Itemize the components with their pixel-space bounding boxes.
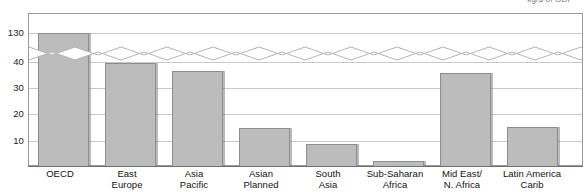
xtick-label-latin-america-carib: Latin America Carib: [486, 169, 578, 190]
ytick-label-130: 130: [0, 28, 24, 38]
bar-mid-east-n-africa[interactable]: [440, 73, 491, 167]
ytick-label-20: 20: [0, 109, 24, 119]
chart-top-caption: kg/$ of GDP: [527, 0, 573, 4]
x-axis-baseline: [28, 166, 583, 167]
axis-break-zigzag: [29, 43, 582, 61]
ytick-label-30: 30: [0, 83, 24, 93]
bar-south-asia[interactable]: [306, 144, 357, 167]
ytick-label-10: 10: [0, 136, 24, 146]
bar-asia-pacific[interactable]: [172, 71, 223, 167]
bar-east-europe[interactable]: [105, 63, 156, 167]
chart-root: kg/$ of GDP 130 40 30 20 10: [0, 0, 587, 192]
plot-area: [28, 13, 583, 166]
bar-asian-planned[interactable]: [239, 128, 290, 167]
bar-oecd[interactable]: [38, 33, 89, 167]
bar-latin-america-carib[interactable]: [507, 127, 558, 167]
ytick-label-40: 40: [0, 57, 24, 67]
gridline-130: [29, 33, 582, 34]
